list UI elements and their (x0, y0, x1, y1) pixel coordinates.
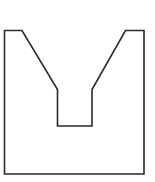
notched-block-outline (5, 31, 145, 175)
diagram-canvas (0, 0, 155, 182)
